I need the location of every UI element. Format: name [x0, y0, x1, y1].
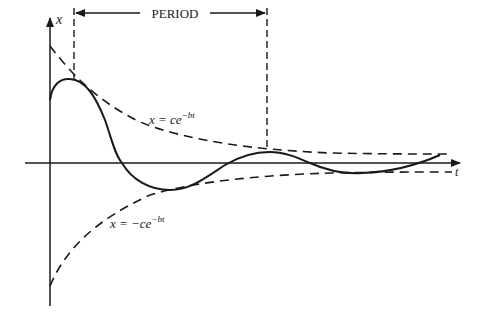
- lower-envelope-prefix: x = −ce: [109, 216, 152, 231]
- upper-envelope-label: x = ce−bt: [148, 110, 195, 127]
- x-axis-label: t: [455, 165, 459, 179]
- damped-oscillation-curve: [50, 79, 440, 190]
- y-axis-label: x: [55, 12, 63, 27]
- lower-envelope-exponent: −bt: [151, 214, 165, 224]
- period-label: PERIOD: [152, 6, 199, 21]
- upper-envelope-prefix: x = ce: [148, 112, 182, 127]
- upper-envelope-exponent: −bt: [182, 110, 196, 120]
- lower-envelope-label: x = −ce−bt: [109, 214, 165, 231]
- damped-oscillation-diagram: x t PERIOD x = ce−bt x = −ce−bt: [0, 0, 484, 323]
